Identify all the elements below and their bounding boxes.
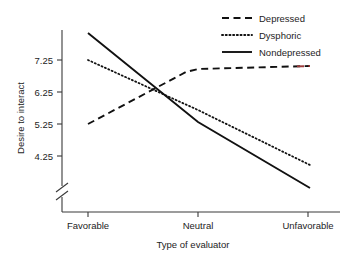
legend-label-depressed: Depressed: [259, 13, 305, 24]
x-axis-title: Type of evaluator: [157, 239, 230, 250]
y-axis-title: Desire to interact: [15, 82, 26, 154]
x-tick-label-unfavorable: Unfavorable: [282, 220, 333, 231]
chart-legend: Depressed Dysphoric Nondepressed: [222, 13, 321, 58]
y-tick-label-6-25: 6.25: [35, 87, 54, 98]
series-line-dysphoric: [88, 60, 310, 165]
legend-label-dysphoric: Dysphoric: [259, 30, 301, 41]
x-tick-label-favorable: Favorable: [67, 220, 109, 231]
y-axis: 7.25 6.25 5.25 4.25: [35, 30, 69, 212]
line-chart: 7.25 6.25 5.25 4.25 Favorable Neutral Un…: [0, 0, 352, 266]
x-axis: Favorable Neutral Unfavorable: [62, 212, 340, 231]
y-tick-label-4-25: 4.25: [35, 151, 54, 162]
legend-label-nondepressed: Nondepressed: [259, 47, 321, 58]
x-tick-label-neutral: Neutral: [183, 220, 214, 231]
y-tick-label-5-25: 5.25: [35, 119, 54, 130]
y-tick-label-7-25: 7.25: [35, 55, 54, 66]
chart-figure: 7.25 6.25 5.25 4.25 Favorable Neutral Un…: [0, 0, 352, 266]
